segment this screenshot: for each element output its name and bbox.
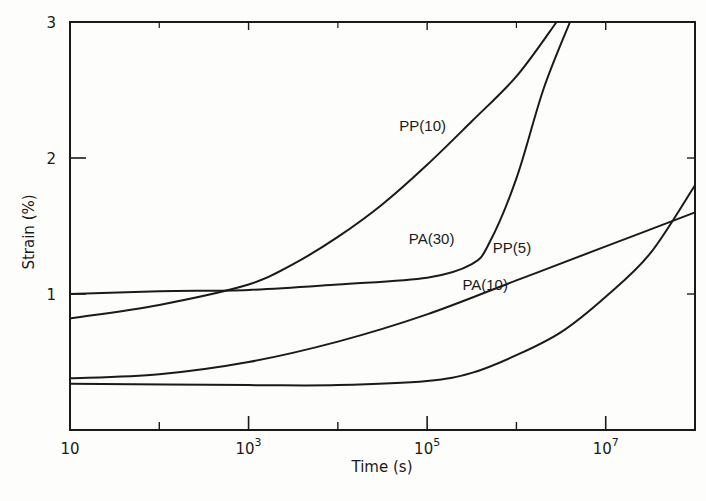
data-series: [70, 22, 695, 385]
axis-tick-labels: 10103105107123: [46, 14, 618, 458]
series-line-pp-10: [70, 22, 557, 319]
plot-frame: [70, 22, 695, 430]
series-label-pp-10: PP(10): [399, 117, 446, 134]
x-tick-label: 10: [60, 440, 79, 458]
y-tick-label: 1: [46, 286, 56, 304]
x-tick-label: 105: [414, 436, 440, 458]
y-tick-label: 2: [46, 150, 56, 168]
strain-time-chart: 10103105107123 PP(10)PA(30)PP(5)PA(10) T…: [0, 0, 706, 501]
x-axis-label: Time (s): [351, 458, 413, 476]
x-tick-label: 103: [236, 436, 262, 458]
series-label-pa-30: PA(30): [409, 230, 455, 247]
x-tick-label: 107: [593, 436, 619, 458]
series-label-pa-10: PA(10): [462, 276, 508, 293]
y-axis-label: Strain (%): [20, 194, 38, 269]
series-label-pp-5: PP(5): [493, 239, 531, 256]
y-tick-label: 3: [46, 14, 56, 32]
axis-ticks: [70, 22, 695, 430]
series-line-pa-10: [70, 185, 695, 385]
series-line-pp-5: [70, 212, 695, 378]
